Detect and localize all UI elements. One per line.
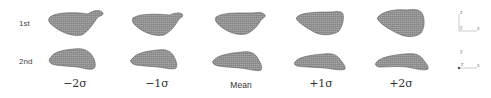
- col-label-minus1sigma: −1σ: [132, 77, 182, 90]
- row-label-2nd: 2nd: [19, 57, 32, 66]
- shape-2nd-plus2sigma: [373, 49, 435, 73]
- axis-indicator-bottom: y z x: [455, 48, 485, 72]
- shape-2nd-minus1sigma: [128, 47, 184, 73]
- axis-label-z: z: [460, 9, 463, 15]
- shape-1st-minus1sigma: [130, 9, 186, 39]
- shape-2nd-plus1sigma: [292, 49, 352, 73]
- shape-1st-plus2sigma: [375, 5, 431, 39]
- axis-label-y: y: [460, 48, 463, 54]
- row-label-1st: 1st: [19, 19, 30, 28]
- axis-label-z: z: [461, 61, 464, 67]
- axis-label-y: y: [460, 24, 463, 30]
- axis-label-x: x: [477, 25, 480, 31]
- shape-2nd-minus2sigma: [46, 47, 102, 73]
- col-label-mean: Mean: [216, 80, 266, 90]
- shape-1st-minus2sigma: [46, 8, 108, 38]
- col-label-plus1sigma: +1σ: [296, 77, 346, 90]
- shape-1st-plus1sigma: [294, 7, 350, 39]
- shape-2nd-mean: [210, 48, 268, 74]
- col-label-minus2sigma: −2σ: [50, 77, 100, 90]
- axis-label-x: x: [477, 62, 480, 68]
- axis-indicator-top: z y x: [455, 10, 485, 34]
- shape-1st-mean: [213, 8, 269, 38]
- col-label-plus2sigma: +2σ: [376, 77, 426, 90]
